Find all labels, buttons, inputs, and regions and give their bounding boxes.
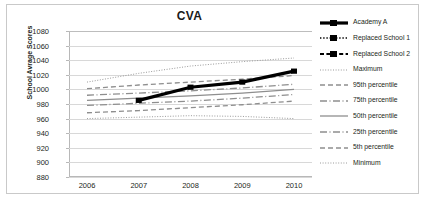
legend-item[interactable]: 5th percentile xyxy=(319,140,423,156)
series-line xyxy=(87,89,294,100)
legend-symbol xyxy=(319,79,349,91)
legend-symbol xyxy=(319,157,349,169)
legend-item[interactable]: 95th percentile xyxy=(319,77,423,93)
series-marker xyxy=(239,80,245,85)
series-marker xyxy=(188,85,194,90)
legend-label: Academy A xyxy=(353,19,387,26)
x-axis-tick-label: 2007 xyxy=(115,181,163,190)
y-axis-tick-label: 1000 xyxy=(9,85,49,94)
y-axis-tick-label: 1040 xyxy=(9,56,49,65)
y-axis-tick-label: 900 xyxy=(9,158,49,167)
gridline xyxy=(69,177,312,178)
legend-label: Replaced School 2 xyxy=(353,51,410,58)
chart-legend: Academy AReplaced School 1Replaced Schoo… xyxy=(319,15,423,171)
legend-label: Minimum xyxy=(353,160,381,167)
legend-item[interactable]: 50th percentile xyxy=(319,109,423,125)
y-axis-tick-label: 1060 xyxy=(9,41,49,50)
legend-symbol xyxy=(319,32,349,44)
legend-symbol xyxy=(319,64,349,76)
series-marker xyxy=(291,69,297,74)
y-axis-tick-label: 1020 xyxy=(9,70,49,79)
x-axis-tick-label: 2009 xyxy=(218,181,266,190)
legend-label: 95th percentile xyxy=(353,82,398,89)
legend-label: 25th percentile xyxy=(353,129,398,136)
legend-item[interactable]: 75th percentile xyxy=(319,93,423,109)
legend-symbol xyxy=(319,95,349,107)
legend-item[interactable]: Maximum xyxy=(319,62,423,78)
series-line xyxy=(87,116,294,119)
y-axis-tick-label: 1080 xyxy=(9,27,49,36)
y-axis-tick-label: 920 xyxy=(9,143,49,152)
legend-symbol xyxy=(319,48,349,60)
legend-label: 75th percentile xyxy=(353,97,398,104)
legend-symbol xyxy=(319,17,349,29)
legend-item[interactable]: Replaced School 1 xyxy=(319,31,423,47)
x-axis-tick-label: 2010 xyxy=(270,181,318,190)
chart-frame: CVA School Avrage Scores 108010601040102… xyxy=(6,4,419,194)
legend-item[interactable]: 25th percentile xyxy=(319,124,423,140)
legend-symbol xyxy=(319,142,349,154)
series-line xyxy=(87,101,294,113)
series-lines xyxy=(69,31,312,177)
legend-label: 5th percentile xyxy=(353,144,394,151)
legend-symbol xyxy=(319,110,349,122)
x-axis-tick-label: 2008 xyxy=(167,181,215,190)
x-axis-tick-label: 2006 xyxy=(63,181,111,190)
legend-label: Maximum xyxy=(353,66,382,73)
y-axis-tick-label: 960 xyxy=(9,114,49,123)
y-axis-tick-label: 980 xyxy=(9,100,49,109)
legend-label: Replaced School 1 xyxy=(353,35,410,42)
y-axis-tick-mark xyxy=(66,177,69,178)
legend-item[interactable]: Academy A xyxy=(319,15,423,31)
plot-area: 20062007200820092010 xyxy=(69,31,312,177)
legend-item[interactable]: Minimum xyxy=(319,155,423,171)
series-marker xyxy=(136,98,142,103)
legend-label: 50th percentile xyxy=(353,113,398,120)
y-axis-tick-label: 880 xyxy=(9,173,49,182)
y-axis-tick-label: 940 xyxy=(9,129,49,138)
legend-symbol xyxy=(319,126,349,138)
legend-item[interactable]: Replaced School 2 xyxy=(319,46,423,62)
